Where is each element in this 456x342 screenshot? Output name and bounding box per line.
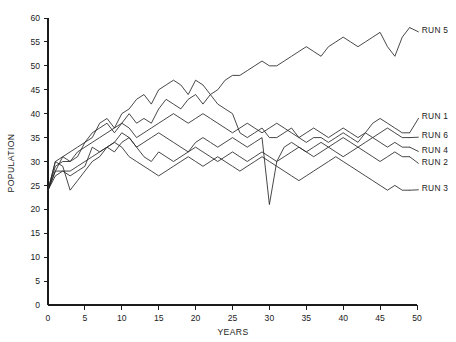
x-tick-label: 50 [412,313,422,323]
chart-canvas: 051015202530354045505560 051015202530354… [0,0,456,342]
x-tick-label: 10 [117,313,127,323]
y-tick-label: 0 [35,300,40,310]
x-tick-label: 45 [375,313,385,323]
y-tick-label: 20 [30,204,40,214]
series-label-run-3: RUN 3 [422,183,449,193]
y-tick-label: 60 [30,13,40,23]
leader-line-run-5 [410,28,419,32]
series-label-run-2: RUN 2 [422,157,449,167]
x-tick-label: 40 [338,313,348,323]
series-label-run-5: RUN 5 [422,25,449,35]
y-tick-label: 10 [30,252,40,262]
series-line-run-6 [48,114,410,191]
y-axis-title: POPULATION [6,134,16,193]
series-label-run-6: RUN 6 [422,130,449,140]
x-tick-label: 0 [46,313,51,323]
y-tick-label: 30 [30,157,40,167]
x-axis-tick-labels: 05101520253035404550 [46,313,422,323]
x-axis-title: YEARS [217,327,248,337]
x-tick-label: 15 [154,313,164,323]
y-axis-group: 051015202530354045505560 [30,13,48,310]
x-tick-label: 20 [191,313,201,323]
y-tick-label: 55 [30,37,40,47]
y-tick-label: 40 [30,109,40,119]
x-axis-ticks [85,305,417,310]
series-line-run-3 [48,142,410,190]
y-axis-ticks [44,18,48,281]
y-axis-tick-labels: 051015202530354045505560 [30,13,40,310]
y-tick-label: 5 [35,276,40,286]
series-lines [48,28,410,205]
leader-line-run-4 [410,147,419,151]
population-line-chart: 051015202530354045505560 051015202530354… [0,0,456,342]
leader-line-run-2 [410,157,419,164]
y-tick-label: 15 [30,228,40,238]
x-tick-label: 35 [302,313,312,323]
x-tick-label: 25 [228,313,238,323]
x-axis-group: 05101520253035404550 [46,305,422,323]
x-tick-label: 30 [265,313,275,323]
y-tick-label: 25 [30,181,40,191]
x-tick-label: 5 [83,313,88,323]
leader-line-run-1 [410,118,419,133]
series-labels: RUN 1RUN 2RUN 3RUN 4RUN 5RUN 6 [410,25,449,193]
series-line-run-1 [48,95,410,191]
series-label-run-1: RUN 1 [422,111,449,121]
y-tick-label: 45 [30,85,40,95]
series-line-run-4 [48,133,410,205]
series-label-run-4: RUN 4 [422,145,449,155]
y-tick-label: 35 [30,133,40,143]
series-line-run-5 [48,28,410,191]
y-tick-label: 50 [30,61,40,71]
